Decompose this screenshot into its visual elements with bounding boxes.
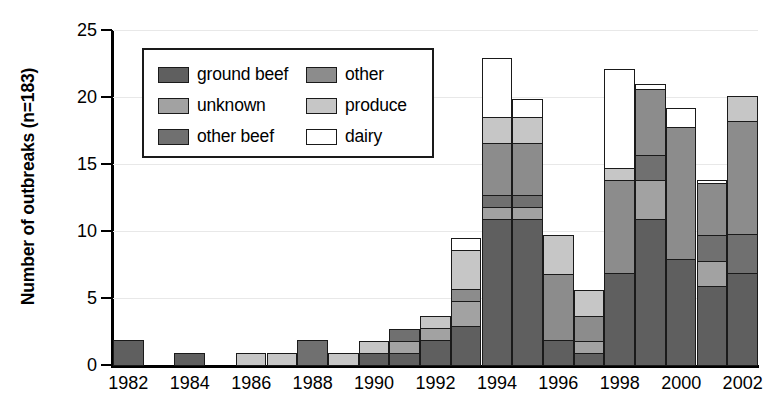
bar-segment-other-beef xyxy=(727,234,758,274)
bar-1988[interactable] xyxy=(297,340,328,365)
legend-label: other beef xyxy=(197,126,274,147)
bar-1995[interactable] xyxy=(512,99,543,365)
bar-1997[interactable] xyxy=(574,290,605,365)
y-tick-mark xyxy=(101,29,112,31)
y-tick-mark xyxy=(101,96,112,98)
legend-entry-other[interactable]: other xyxy=(306,59,446,90)
bar-segment-dairy xyxy=(604,69,635,170)
x-tick-label-2002: 2002 xyxy=(723,373,763,394)
y-axis-title: Number of outbreaks (n=183) xyxy=(18,7,39,367)
bar-segment-other xyxy=(727,121,758,235)
bar-1993[interactable] xyxy=(451,238,482,365)
bar-1999[interactable] xyxy=(635,84,666,365)
bar-segment-other xyxy=(574,316,605,343)
bar-2001[interactable] xyxy=(697,180,728,365)
bar-segment-ground-beef xyxy=(604,273,635,367)
bar-1992[interactable] xyxy=(420,316,451,365)
bar-segment-other xyxy=(512,143,543,197)
bar-segment-produce xyxy=(482,117,513,144)
legend-label: produce xyxy=(345,95,407,116)
bar-segment-dairy xyxy=(666,108,697,128)
bar-segment-other xyxy=(666,127,697,261)
chart-legend: ground beefotherunknownproduceother beef… xyxy=(142,48,434,158)
bar-segment-produce xyxy=(451,250,482,290)
bar-segment-ground-beef xyxy=(666,259,697,366)
bar-1989[interactable] xyxy=(328,353,359,365)
bar-segment-unknown xyxy=(697,261,728,288)
bar-segment-ground-beef xyxy=(420,340,451,367)
bar-segment-produce xyxy=(512,117,543,144)
stacked-bar-chart-figure: Number of outbreaks (n=183) 0510152025 1… xyxy=(0,0,775,410)
bar-segment-other-beef xyxy=(697,235,728,262)
x-tick-label-1998: 1998 xyxy=(600,373,640,394)
y-tick-label: 10 xyxy=(77,221,97,242)
x-tick-label-2000: 2000 xyxy=(661,373,701,394)
x-tick-label-1982: 1982 xyxy=(108,373,148,394)
legend-label: other xyxy=(345,64,384,85)
bar-segment-other xyxy=(482,143,513,197)
legend-swatch-ground-beef xyxy=(158,67,189,83)
legend-swatch-other xyxy=(306,67,337,83)
bar-2002[interactable] xyxy=(727,96,758,365)
bar-1996[interactable] xyxy=(543,235,574,365)
bar-segment-other xyxy=(635,89,666,156)
y-tick-label: 15 xyxy=(77,154,97,175)
bar-1987[interactable] xyxy=(267,353,298,365)
y-tick-mark xyxy=(101,163,112,165)
bar-1991[interactable] xyxy=(389,329,420,365)
bar-segment-other xyxy=(604,180,635,274)
bar-1982[interactable] xyxy=(113,340,144,365)
y-tick-label: 25 xyxy=(77,20,97,41)
bar-1986[interactable] xyxy=(236,353,267,365)
bar-segment-ground-beef xyxy=(174,353,205,366)
bar-1998[interactable] xyxy=(604,69,635,365)
bar-segment-ground-beef xyxy=(512,219,543,366)
bar-segment-dairy xyxy=(482,58,513,118)
bar-segment-produce xyxy=(267,353,298,366)
legend-label: ground beef xyxy=(197,64,288,85)
legend-swatch-dairy xyxy=(306,129,337,145)
bar-segment-produce xyxy=(328,353,359,366)
bar-segment-ground-beef xyxy=(113,340,144,367)
bar-1990[interactable] xyxy=(359,341,390,365)
bar-segment-other-beef xyxy=(297,340,328,367)
legend-label: unknown xyxy=(197,95,266,116)
y-tick-label: 20 xyxy=(77,87,97,108)
x-tick-label-1996: 1996 xyxy=(538,373,578,394)
bar-1984[interactable] xyxy=(174,353,205,365)
y-tick-label: 0 xyxy=(87,355,97,376)
x-tick-label-1994: 1994 xyxy=(477,373,517,394)
bar-segment-other xyxy=(697,183,728,237)
x-tick-label-1984: 1984 xyxy=(170,373,210,394)
bar-segment-ground-beef xyxy=(482,219,513,366)
legend-swatch-produce xyxy=(306,98,337,114)
bar-1994[interactable] xyxy=(482,58,513,365)
bar-segment-produce xyxy=(543,235,574,275)
y-tick-mark xyxy=(101,230,112,232)
legend-swatch-unknown xyxy=(158,98,189,114)
legend-entry-produce[interactable]: produce xyxy=(306,90,446,121)
legend-entry-unknown[interactable]: unknown xyxy=(158,90,306,121)
bar-segment-ground-beef xyxy=(451,326,482,366)
bar-segment-ground-beef xyxy=(359,353,390,366)
bar-segment-dairy xyxy=(512,99,543,119)
bar-segment-ground-beef xyxy=(389,353,420,366)
bar-segment-produce xyxy=(236,353,267,366)
x-tick-label-1988: 1988 xyxy=(293,373,333,394)
legend-entry-other-beef[interactable]: other beef xyxy=(158,121,306,152)
legend-grid: ground beefotherunknownproduceother beef… xyxy=(144,59,432,152)
y-tick-label: 5 xyxy=(87,288,97,309)
bar-segment-unknown xyxy=(635,180,666,220)
legend-swatch-other-beef xyxy=(158,129,189,145)
bar-segment-unknown xyxy=(451,301,482,328)
y-tick-mark xyxy=(101,297,112,299)
bar-segment-other-beef xyxy=(635,155,666,182)
y-tick-mark xyxy=(101,364,112,366)
legend-entry-ground-beef[interactable]: ground beef xyxy=(158,59,306,90)
bar-segment-produce xyxy=(574,290,605,317)
x-tick-label-1990: 1990 xyxy=(354,373,394,394)
bar-2000[interactable] xyxy=(666,108,697,365)
legend-entry-dairy[interactable]: dairy xyxy=(306,121,446,152)
bar-segment-other xyxy=(543,274,574,341)
bar-segment-ground-beef xyxy=(697,286,728,366)
